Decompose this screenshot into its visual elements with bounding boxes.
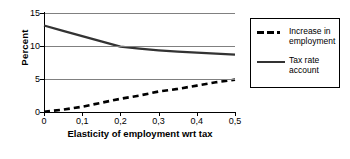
y-tick-5: [40, 79, 45, 80]
series-layer: [44, 13, 235, 112]
x-tick-label-3: 0,3: [152, 116, 165, 126]
y-tick-label-15: 15: [30, 9, 40, 18]
y-tick-label-10: 10: [30, 42, 40, 51]
y-axis-tick-labels: 051015: [0, 0, 40, 159]
x-axis-title: Elasticity of employment wrt tax: [44, 128, 236, 140]
chart-figure: Percent 051015 00,10,20,30,40,5 Elastici…: [0, 0, 350, 159]
x-tick-label-1: 0,1: [76, 116, 89, 126]
gridline-y-5: [44, 79, 235, 80]
gridline-y-10: [44, 46, 235, 47]
series-line-increase-in-employment: [44, 80, 235, 112]
legend-dashed-swatch-icon: [256, 27, 286, 39]
x-axis-line: [44, 112, 236, 113]
legend-label-0: Increase in employment: [289, 26, 335, 46]
legend-item-0[interactable]: Increase in employment: [256, 26, 335, 46]
x-tick-label-5: 0,5: [229, 116, 242, 126]
x-tick-label-4: 0,4: [191, 116, 204, 126]
legend-label-1: Tax rate account: [289, 55, 319, 75]
plot-area: [44, 13, 235, 112]
chart-legend: Increase in employmentTax rate account: [250, 18, 340, 88]
x-tick-label-0: 0: [41, 116, 46, 126]
x-tick-label-2: 0,2: [114, 116, 127, 126]
gridline-y-15: [44, 13, 235, 14]
y-tick-10: [40, 46, 45, 47]
legend-solid-swatch-icon: [256, 56, 286, 68]
y-tick-15: [40, 13, 45, 14]
series-line-tax-rate-account: [44, 26, 235, 55]
legend-item-1[interactable]: Tax rate account: [256, 55, 319, 75]
